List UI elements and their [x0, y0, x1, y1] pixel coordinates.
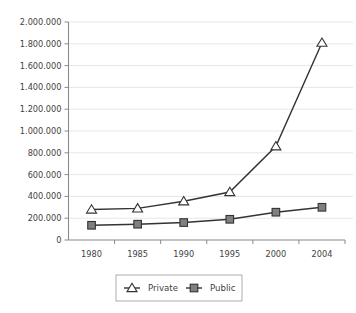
x-tick-label: 1980	[81, 249, 102, 259]
x-tick-label: 1990	[173, 249, 194, 259]
legend-label-public: Public	[210, 283, 236, 293]
y-tick-label: 800.000	[28, 148, 62, 158]
line-chart: 0200.000400.000600.000800.0001.000.0001.…	[0, 0, 356, 313]
x-tick-label: 1985	[127, 249, 148, 259]
x-tick-label: 2004	[312, 249, 333, 259]
data-point-public-2000	[272, 208, 280, 216]
chart-canvas: 0200.000400.000600.000800.0001.000.0001.…	[0, 0, 356, 313]
data-point-public-1995	[226, 215, 234, 223]
legend-label-private: Private	[148, 283, 178, 293]
y-tick-label: 1.200.000	[20, 104, 62, 114]
y-tick-label: 1.800.000	[20, 39, 62, 49]
y-tick-label: 600.000	[28, 170, 62, 180]
y-tick-label: 1.400.000	[20, 82, 62, 92]
y-tick-label: 1.600.000	[20, 61, 62, 71]
x-tick-label: 2000	[265, 249, 286, 259]
y-tick-label: 200.000	[28, 213, 62, 223]
data-point-public-1985	[134, 220, 142, 228]
legend: PrivatePublic	[116, 275, 242, 301]
legend-marker-public	[190, 284, 198, 292]
x-tick-label: 1995	[219, 249, 240, 259]
y-tick-label: 2.000.000	[20, 17, 62, 27]
data-point-public-1990	[180, 219, 188, 227]
y-tick-label: 400.000	[28, 191, 62, 201]
data-point-public-1980	[88, 221, 96, 229]
y-tick-label: 0	[56, 235, 61, 245]
y-tick-label: 1.000.000	[20, 126, 62, 136]
data-point-public-2004	[318, 204, 326, 212]
